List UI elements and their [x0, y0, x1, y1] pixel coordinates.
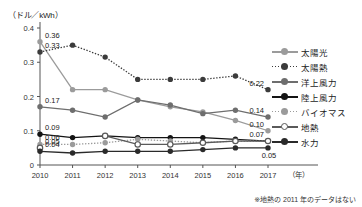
legend-marker-icon [272, 136, 298, 147]
data-point [102, 114, 107, 119]
data-point [37, 49, 42, 54]
data-point [102, 54, 107, 59]
series-太陽光 [37, 39, 270, 133]
series-太陽熱 [37, 42, 270, 92]
legend-marker-icon [272, 61, 298, 72]
data-point [70, 142, 75, 147]
data-point [135, 149, 140, 154]
data-point [102, 140, 107, 145]
data-point [168, 102, 173, 107]
legend-item-label: 太陽光 [298, 46, 328, 58]
y-axis-tick-label: 0.1 [24, 127, 34, 136]
legend-item-label: 太陽熱 [298, 61, 328, 73]
data-point [135, 77, 140, 82]
data-point [102, 133, 107, 138]
data-point [70, 150, 75, 155]
data-point [70, 87, 75, 92]
data-value-label: 0.14 [249, 106, 264, 115]
x-axis-tick-label: 2013 [129, 171, 146, 180]
x-axis-tick-label: 2016 [227, 171, 244, 180]
data-point [70, 135, 75, 140]
data-value-label: 0.04 [45, 140, 60, 149]
legend-marker-icon [272, 76, 298, 87]
data-value-label: 0.10 [249, 120, 264, 129]
data-point [37, 131, 42, 136]
data-point [200, 77, 205, 82]
legend-item-label: 陸上風力 [298, 91, 337, 103]
chart-legend: 太陽光太陽熱洋上風力陸上風力バイオマス地熱水力 [272, 44, 358, 149]
legend-item-1[interactable]: 太陽光 [272, 44, 358, 59]
data-point [233, 138, 238, 143]
y-axis-unit-label: （ドル／kWh） [8, 9, 62, 20]
legend-item-5[interactable]: バイオマス [272, 104, 358, 119]
data-point [135, 142, 140, 147]
y-axis-tick-label: 0.2 [24, 93, 34, 102]
legend-item-7[interactable]: 水力 [272, 134, 358, 149]
series-洋上風力 [37, 97, 270, 120]
data-point [102, 87, 107, 92]
data-point [102, 149, 107, 154]
data-value-label: 0.22 [249, 79, 264, 88]
legend-item-label: 水力 [298, 136, 319, 148]
data-point [70, 108, 75, 113]
series-line [40, 42, 268, 131]
data-point [265, 145, 270, 150]
data-point [265, 114, 270, 119]
legend-item-4[interactable]: 陸上風力 [272, 89, 358, 104]
legend-marker-icon [272, 106, 298, 117]
data-point [168, 77, 173, 82]
chart-container: （ドル／kWh） 00.10.20.30.4201020112012201320… [0, 0, 362, 207]
data-value-label: 0.36 [45, 31, 60, 40]
y-axis-tick-label: 0.4 [24, 24, 34, 33]
data-point [200, 111, 205, 116]
data-point [200, 147, 205, 152]
legend-marker-icon [272, 121, 298, 132]
data-value-label: 0.33 [45, 41, 60, 50]
data-point [168, 149, 173, 154]
data-point [200, 140, 205, 145]
x-axis-tick-label: 2015 [195, 171, 212, 180]
data-point [265, 128, 270, 133]
legend-item-6[interactable]: 地熱 [272, 119, 358, 134]
y-axis-tick-label: 0.3 [24, 58, 34, 67]
data-value-label: 0.09 [45, 123, 60, 132]
data-point [233, 73, 238, 78]
data-point [37, 39, 42, 44]
x-axis-unit-label: （年） [288, 170, 309, 180]
data-value-label: 0.05 [262, 151, 277, 160]
legend-item-2[interactable]: 太陽熱 [272, 59, 358, 74]
chart-footnote: ※地熱の 2011 年のデータはない [254, 194, 356, 204]
x-axis-tick-label: 2014 [162, 171, 179, 180]
data-value-label: 0.17 [45, 96, 60, 105]
data-point [70, 42, 75, 47]
data-point [168, 142, 173, 147]
legend-marker-icon [272, 46, 298, 57]
data-point [233, 145, 238, 150]
x-axis-tick-label: 2011 [65, 171, 81, 180]
legend-item-label: バイオマス [298, 106, 346, 118]
data-point [265, 138, 270, 143]
legend-item-3[interactable]: 洋上風力 [272, 74, 358, 89]
data-value-label: 0.07 [249, 130, 264, 139]
data-point [233, 108, 238, 113]
x-axis-tick-label: 2010 [32, 171, 49, 180]
data-point [135, 97, 140, 102]
y-axis-tick-label: 0 [30, 161, 34, 170]
data-point [233, 118, 238, 123]
x-axis-tick-label: 2012 [97, 171, 114, 180]
legend-item-label: 地熱 [298, 121, 319, 133]
data-point [37, 149, 42, 154]
x-axis-tick-label: 2017 [260, 171, 277, 180]
legend-item-label: 洋上風力 [298, 76, 337, 88]
data-point [37, 104, 42, 109]
data-point [265, 87, 270, 92]
legend-marker-icon [272, 91, 298, 102]
series-line [40, 45, 268, 90]
